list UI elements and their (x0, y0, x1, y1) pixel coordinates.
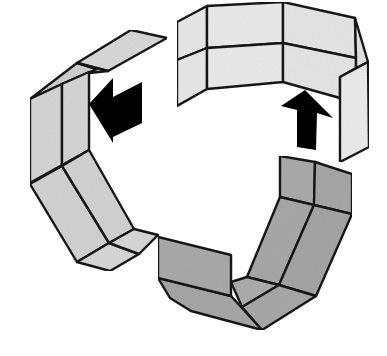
top-strip-middle-lower-panel (207, 43, 283, 89)
top-strip-end-flap (340, 62, 369, 162)
top-strip-middle-upper-panel (207, 2, 283, 48)
left-strip-top-flap (77, 30, 167, 71)
bottom-strip (158, 156, 352, 330)
folded-strips-diagram (0, 0, 387, 356)
arrow-left-icon (89, 78, 142, 143)
diagram-canvas (0, 0, 387, 356)
top-strip-fold-sliver (355, 18, 368, 68)
top-strip (177, 2, 369, 162)
arrow-up-icon (281, 90, 333, 150)
left-strip (30, 30, 167, 271)
